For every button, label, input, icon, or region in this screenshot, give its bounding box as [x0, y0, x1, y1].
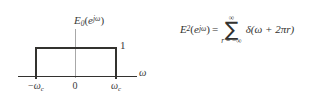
plot-title-label: E0(ejω) — [44, 15, 134, 28]
omega-symbol: ω — [111, 80, 118, 91]
cutoff-subscript: c — [41, 85, 44, 93]
omega-symbol: ω — [34, 80, 41, 91]
summation-operator: ∞ ∑ r = −∞ — [221, 14, 241, 44]
tick-mark-negative-cutoff — [35, 71, 37, 79]
summation-equation: E2(ejω) = ∞ ∑ r = −∞ δ(ω + 2πr) — [162, 14, 312, 44]
equals-sign: = — [210, 24, 220, 35]
tick-label-positive-cutoff: ωc — [99, 81, 133, 93]
summand-expression: δ(ω + 2πr) — [246, 24, 294, 35]
frequency-response-plot: E0(ejω) 1 ω −ωc 0 ωc — [0, 0, 158, 101]
plot-title-base: E — [74, 14, 81, 26]
omega-axis-name-label: ω — [139, 68, 146, 79]
plot-title-close-paren: ) — [100, 14, 104, 26]
cutoff-subscript: c — [118, 85, 121, 93]
tick-label-origin: 0 — [58, 81, 92, 91]
equation-lhs-exp-superscript: jω — [199, 25, 206, 33]
tick-label-negative-cutoff: −ωc — [15, 81, 57, 93]
tick-mark-positive-cutoff — [115, 71, 117, 79]
sigma-icon: ∑ — [225, 21, 238, 37]
equation-left-hand-side: E2(ejω) — [180, 24, 210, 35]
equation-panel: E2(ejω) = ∞ ∑ r = −∞ δ(ω + 2πr) — [158, 0, 315, 101]
amplitude-value-label: 1 — [120, 40, 126, 51]
summation-lower-limit: r = −∞ — [221, 37, 241, 45]
equation-lhs-base: E — [180, 24, 187, 35]
summation-limit-equals: = — [224, 36, 232, 45]
figure-root: E0(ejω) 1 ω −ωc 0 ωc E2(ejω) = ∞ ∑ — [0, 0, 315, 101]
rectangular-pulse-shape — [35, 47, 117, 77]
summation-limit-value: −∞ — [232, 36, 242, 45]
